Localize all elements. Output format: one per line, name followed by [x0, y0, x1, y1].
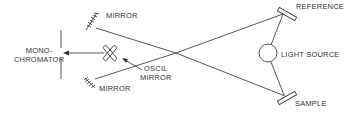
top-mirror-icon [86, 13, 99, 30]
mirror-bottom-label: MIRROR [99, 84, 131, 93]
monochromator-label-line2: CHROMATOR [14, 55, 64, 64]
output-beam-arrow-icon [63, 51, 104, 56]
bottom-mirror-icon [84, 77, 95, 88]
sample-label: SAMPLE [295, 99, 327, 108]
light-source-label: LIGHT SOURCE [281, 50, 340, 59]
mirror-top-label: MIRROR [106, 11, 138, 20]
reference-label: REFERENCE [296, 2, 344, 11]
oscil-mirror-label-line2: MIRROR [140, 73, 172, 82]
sample-mirror-icon [277, 91, 296, 104]
oscil-mirror-label-line1: OSCIL [140, 64, 172, 73]
monochromator-label-line1: MONO- [14, 46, 64, 55]
oscil-mirror-label: OSCIL MIRROR [140, 64, 172, 82]
monochromator-label: MONO- CHROMATOR [14, 46, 64, 64]
oscillating-mirror-icon [103, 45, 118, 61]
light-source-icon [259, 44, 277, 62]
oscil-pointer-arrow-icon [122, 58, 142, 70]
reference-mirror-icon [277, 7, 296, 20]
